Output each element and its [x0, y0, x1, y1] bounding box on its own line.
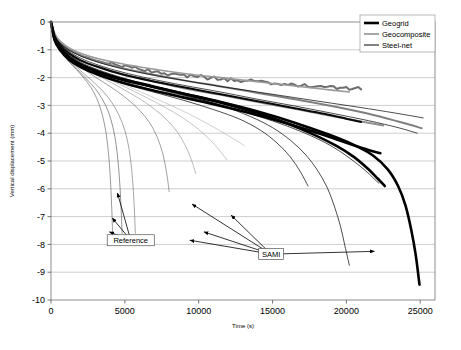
annotation-label: Reference	[113, 236, 148, 245]
y-tick-label: -5	[37, 156, 45, 166]
x-tick-label: 15000	[260, 306, 285, 316]
displacement-time-chart: 0500010000150002000025000 0-1-2-3-4-5-6-…	[0, 0, 461, 350]
y-tick-label: -9	[37, 267, 45, 277]
x-tick-label: 25000	[408, 306, 433, 316]
y-tick-label: -8	[37, 240, 45, 250]
y-tick-label: -6	[37, 184, 45, 194]
x-axis-title: Time (s)	[232, 323, 254, 329]
x-tick-label: 5000	[115, 306, 135, 316]
y-tick-label: -10	[32, 295, 45, 305]
legend-label-steel-net: Steel-net	[382, 41, 413, 50]
annotation-label: SAMI	[262, 250, 280, 259]
legend-label-geocomposite: Geocomposite	[382, 30, 430, 39]
y-tick-label: -7	[37, 212, 45, 222]
chart-legend: GeogridGeocompositeSteel-net	[360, 15, 435, 52]
y-tick-label: -3	[37, 101, 45, 111]
legend-label-geogrid: Geogrid	[382, 19, 409, 28]
x-tick-label: 0	[48, 306, 53, 316]
x-tick-label: 10000	[186, 306, 211, 316]
y-tick-label: 0	[40, 17, 45, 27]
y-axis-title: Vertical displacement (mm)	[9, 125, 15, 197]
y-tick-label: -4	[37, 128, 45, 138]
chart-container: 0500010000150002000025000 0-1-2-3-4-5-6-…	[0, 0, 461, 350]
y-tick-label: -1	[37, 45, 45, 55]
y-tick-label: -2	[37, 73, 45, 83]
x-tick-label: 20000	[334, 306, 359, 316]
